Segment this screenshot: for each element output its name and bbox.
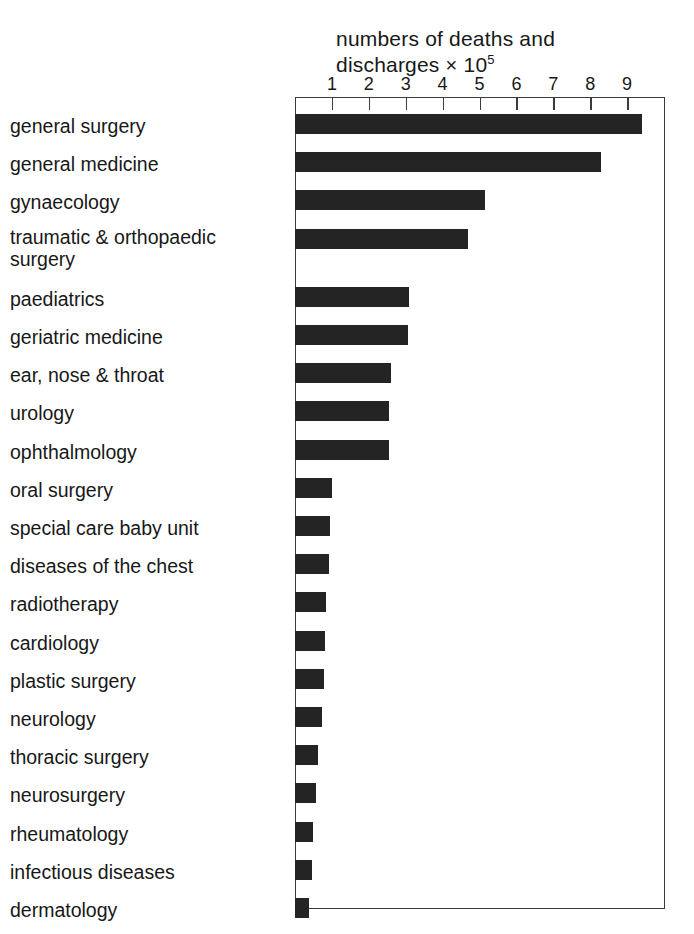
bar: [295, 860, 312, 880]
axis-title-exponent: 5: [487, 52, 494, 67]
bar: [295, 363, 391, 383]
bar: [295, 516, 330, 536]
category-label: urology: [10, 402, 288, 425]
x-axis-tick-label: 2: [354, 74, 384, 94]
category-label: cardiology: [10, 632, 288, 655]
axis-title-line2-prefix: discharges: [336, 53, 446, 76]
axis-title-line2-base: 10: [457, 53, 487, 76]
category-label: infectious diseases: [10, 861, 288, 884]
category-label: neurosurgery: [10, 784, 288, 807]
category-label: ear, nose & throat: [10, 364, 288, 387]
x-axis-tick-label: 1: [317, 74, 347, 94]
x-axis-tick-label: 8: [575, 74, 605, 94]
category-label: rheumatology: [10, 823, 288, 846]
bar: [295, 478, 332, 498]
bar: [295, 229, 468, 249]
bar: [295, 190, 485, 210]
bar: [295, 898, 309, 918]
category-label: thoracic surgery: [10, 746, 288, 769]
bar: [295, 783, 316, 803]
bar: [295, 440, 389, 460]
category-label: paediatrics: [10, 288, 288, 311]
category-label: ophthalmology: [10, 441, 288, 464]
category-label: neurology: [10, 708, 288, 731]
category-label: special care baby unit: [10, 517, 288, 540]
category-label: geriatric medicine: [10, 326, 288, 349]
category-label: gynaecology: [10, 191, 288, 214]
category-label: dermatology: [10, 899, 288, 922]
category-label: general medicine: [10, 153, 288, 176]
bar: [295, 287, 409, 307]
x-axis-tick-label: 4: [428, 74, 458, 94]
axis-title-line1: numbers of deaths and: [336, 27, 555, 50]
multiplication-sign: ×: [446, 54, 458, 76]
axis-title: numbers of deaths and discharges × 105: [336, 26, 666, 78]
x-axis-tick-label: 9: [612, 74, 642, 94]
bar: [295, 669, 324, 689]
bar: [295, 592, 326, 612]
bar: [295, 554, 329, 574]
bar: [295, 152, 601, 172]
category-label: traumatic & orthopaedic surgery: [10, 226, 288, 270]
category-label: oral surgery: [10, 479, 288, 502]
bar: [295, 401, 389, 421]
bars-group: [295, 97, 665, 909]
bar-chart: numbers of deaths and discharges × 105 1…: [0, 0, 694, 934]
bar: [295, 325, 408, 345]
bar: [295, 631, 325, 651]
x-axis-tick-labels: 123456789: [295, 74, 665, 96]
category-label: diseases of the chest: [10, 555, 288, 578]
category-label: plastic surgery: [10, 670, 288, 693]
category-label: radiotherapy: [10, 593, 288, 616]
x-axis-tick-label: 6: [501, 74, 531, 94]
bar: [295, 114, 642, 134]
bar: [295, 745, 318, 765]
x-axis-tick-label: 7: [538, 74, 568, 94]
bar: [295, 822, 313, 842]
category-label: general surgery: [10, 115, 288, 138]
x-axis-tick-label: 5: [465, 74, 495, 94]
category-labels-group: general surgerygeneral medicinegynaecolo…: [0, 97, 288, 909]
x-axis-tick-label: 3: [391, 74, 421, 94]
bar: [295, 707, 322, 727]
